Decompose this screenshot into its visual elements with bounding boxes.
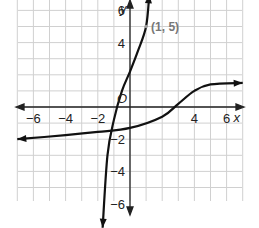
y-tick-label: −6 [110, 197, 125, 212]
x-tick-label: −4 [58, 111, 73, 126]
point-annotation: (1, 5) [151, 20, 179, 34]
curve-arrow-end [234, 80, 243, 87]
y-tick-label: 4 [118, 36, 125, 51]
x-tick-label: 4 [191, 111, 198, 126]
curve-arrow-start [100, 219, 107, 228]
coordinate-plane: −6−4−24664−2−4−6 x y O (1, 5) [0, 0, 259, 228]
origin-label: O [117, 91, 127, 106]
y-tick-label: −4 [110, 164, 125, 179]
y-tick-label: −2 [110, 132, 125, 147]
x-tick-label: −2 [90, 111, 105, 126]
point-marker [144, 25, 148, 29]
x-axis-label: x [233, 110, 241, 125]
x-tick-label: −6 [26, 111, 41, 126]
curve-steep [103, 0, 150, 228]
axes [16, 0, 244, 215]
y-axis-arrow-down [127, 207, 133, 215]
x-tick-label: 6 [223, 111, 230, 126]
y-axis-arrow-up [127, 0, 133, 8]
